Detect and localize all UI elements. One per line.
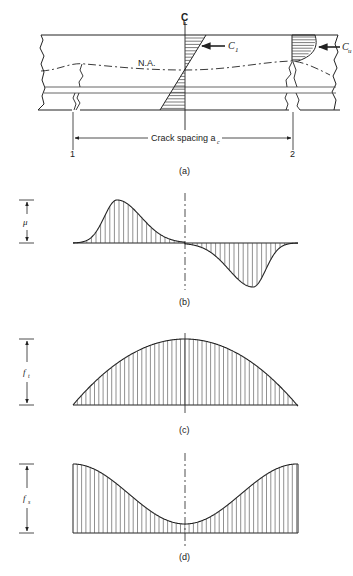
crack-2-label: 2	[290, 149, 295, 159]
bond-stress-label: μ	[22, 217, 28, 227]
c1-label: C	[228, 40, 235, 51]
panel-b: μ (b)	[19, 193, 298, 307]
neutral-axis-label: N.A.	[138, 58, 156, 68]
steel-stress-label-sub: s	[28, 499, 31, 505]
steel-stress-curve	[73, 464, 298, 533]
central-stress-block	[160, 35, 206, 110]
caption-b: (b)	[179, 297, 190, 307]
bond-stress-curve	[73, 200, 298, 287]
centerline-label-sub: L	[183, 19, 188, 26]
steel-stress-label: f	[23, 493, 27, 503]
panel-c: f t (c)	[19, 333, 298, 435]
panel-a: C L C 1 C u N.A. Crack spacing a c 1 2 (…	[38, 12, 352, 176]
crack-stress-diagram: C L C 1 C u N.A. Crack spacing a c 1 2 (…	[0, 0, 353, 576]
crack-2	[285, 62, 300, 110]
crack-spacing-label-sub: c	[217, 139, 220, 145]
concrete-stress-label: f	[23, 367, 27, 377]
panel-d: f s (d)	[19, 453, 298, 562]
c1-label-sub: 1	[235, 46, 239, 54]
beam-left-break	[38, 35, 45, 110]
crack-spacing-label: Crack spacing a	[151, 133, 216, 143]
crack-compression-block	[292, 35, 316, 61]
steel-stress-outline	[73, 464, 298, 524]
concrete-stress-curve	[73, 339, 298, 406]
concrete-stress-outline	[73, 339, 298, 406]
caption-d: (d)	[179, 552, 190, 562]
caption-a: (a)	[179, 166, 190, 176]
caption-c: (c)	[179, 425, 190, 435]
cu-label-sub: u	[348, 47, 352, 55]
crack-1-label: 1	[70, 149, 75, 159]
concrete-stress-label-sub: t	[28, 373, 30, 379]
